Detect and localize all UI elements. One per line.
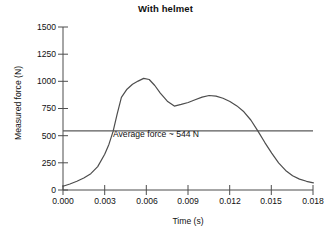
plot-area xyxy=(0,0,331,236)
average-force-annotation: Average force ~ 544 N xyxy=(113,129,199,139)
chart-figure: With helmet Measured force (N) Time (s) … xyxy=(0,0,331,236)
